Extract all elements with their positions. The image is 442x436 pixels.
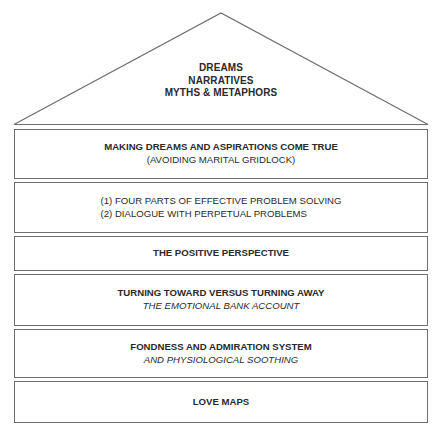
floor-title: TURNING TOWARD VERSUS TURNING AWAY — [118, 287, 325, 300]
floor-title: LOVE MAPS — [193, 396, 250, 409]
floor-title: THE POSITIVE PERSPECTIVE — [153, 247, 289, 260]
floor-fondness-admiration: FONDNESS AND ADMIRATION SYSTEM AND PHYSI… — [14, 329, 428, 378]
floor-love-maps: LOVE MAPS — [14, 381, 428, 423]
floor-subtitle: THE EMOTIONAL BANK ACCOUNT — [143, 300, 300, 313]
floor-list-item: (1) FOUR PARTS OF EFFECTIVE PROBLEM SOLV… — [101, 195, 342, 208]
floor-dreams-aspirations: MAKING DREAMS AND ASPIRATIONS COME TRUE … — [14, 129, 428, 179]
floor-turning-toward: TURNING TOWARD VERSUS TURNING AWAY THE E… — [14, 274, 428, 326]
floor-subtitle: (AVOIDING MARITAL GRIDLOCK) — [147, 154, 296, 167]
floor-list-item: (2) DIALOGUE WITH PERPETUAL PROBLEMS — [101, 208, 342, 221]
floor-title: FONDNESS AND ADMIRATION SYSTEM — [130, 341, 311, 354]
floor-subtitle: AND PHYSIOLOGICAL SOOTHING — [144, 354, 298, 367]
roof-line-myths: MYTHS & METAPHORS — [0, 87, 442, 100]
roof-line-dreams: DREAMS — [0, 62, 442, 75]
roof-line-narratives: NARRATIVES — [0, 75, 442, 88]
floor-problem-solving: (1) FOUR PARTS OF EFFECTIVE PROBLEM SOLV… — [14, 182, 428, 233]
floor-title: MAKING DREAMS AND ASPIRATIONS COME TRUE — [104, 141, 338, 154]
roof-label: DREAMS NARRATIVES MYTHS & METAPHORS — [0, 62, 442, 100]
floor-list: (1) FOUR PARTS OF EFFECTIVE PROBLEM SOLV… — [101, 195, 342, 220]
floor-positive-perspective: THE POSITIVE PERSPECTIVE — [14, 236, 428, 271]
